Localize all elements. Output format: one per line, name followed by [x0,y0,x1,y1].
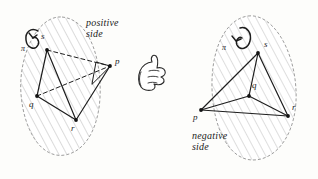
left-vertex-label-s: s [41,31,45,41]
right-vertex-label-s: s [264,39,268,49]
vertex-r [74,118,78,122]
left-plane-label-pi: π [21,45,25,54]
figure-canvas: π s q r p positive side π s q r p negati… [0,0,318,179]
left-vertex-label-p: p [115,56,120,66]
right-vertex-label-p: p [193,112,198,122]
vertex-q [35,94,39,98]
thumbs-up-hand-icon [139,55,166,90]
vertex-s [256,51,260,55]
right-vertex-label-r: r [292,102,296,112]
right-plane-label-pi: π [222,44,226,53]
vertex-q [247,94,251,98]
positive-side-caption: positive side [86,17,119,39]
vertex-p [199,108,203,112]
left-vertex-label-q: q [29,99,34,109]
left-vertex-label-r: r [71,123,75,133]
vertex-p [108,64,112,68]
figure-vector-layer [0,0,318,179]
vertex-r [286,114,290,118]
vertex-s [45,48,49,52]
negative-side-caption: negative side [192,130,227,152]
right-vertex-label-q: q [252,80,257,90]
